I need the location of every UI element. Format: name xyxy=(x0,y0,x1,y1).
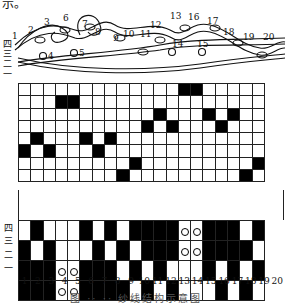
draft-cell xyxy=(154,120,166,132)
draft-cell xyxy=(19,84,31,96)
draft-cell xyxy=(117,120,129,132)
tieup-cell xyxy=(203,221,215,241)
tieup-cell xyxy=(154,221,166,241)
column-numbers: 1234567891011121314151617181920 xyxy=(18,276,284,286)
draft-cell xyxy=(154,96,166,108)
tieup-cell xyxy=(92,241,104,261)
column-number: 2 xyxy=(31,276,44,286)
draft-cell xyxy=(68,84,80,96)
grid-spacer xyxy=(18,190,284,220)
tieup-cell xyxy=(154,241,166,261)
draft-cell xyxy=(215,145,227,157)
draft-cell xyxy=(31,108,43,120)
tieup-cell xyxy=(141,241,153,261)
draft-cell xyxy=(141,84,153,96)
thread-number: 3 xyxy=(44,17,50,27)
draft-cell xyxy=(117,170,129,182)
draft-cell xyxy=(43,96,55,108)
draft-cell xyxy=(55,108,67,120)
tieup-cell xyxy=(252,221,264,241)
draft-cell xyxy=(215,84,227,96)
tieup-cell xyxy=(228,221,240,241)
draft-cell xyxy=(203,133,215,145)
draft-cell xyxy=(105,96,117,108)
draft-cell xyxy=(105,108,117,120)
draft-cell xyxy=(43,120,55,132)
thread-number: 6 xyxy=(63,13,69,23)
draft-cell xyxy=(166,170,178,182)
draft-cell xyxy=(252,84,264,96)
draft-cell xyxy=(141,170,153,182)
tieup-cell xyxy=(92,221,104,241)
tieup-cell xyxy=(191,221,203,241)
draft-cell xyxy=(252,133,264,145)
ring-marker-label: 4 xyxy=(48,51,54,61)
thread-number: 17 xyxy=(207,16,219,26)
draft-cell xyxy=(129,157,141,169)
tieup-row xyxy=(19,221,265,241)
draft-cell xyxy=(191,133,203,145)
draft-cell xyxy=(80,170,92,182)
draft-cell xyxy=(68,145,80,157)
draft-cell xyxy=(80,120,92,132)
tieup-cell xyxy=(129,241,141,261)
draft-cell xyxy=(240,157,252,169)
draft-cell xyxy=(43,133,55,145)
tieup-cell xyxy=(31,221,43,241)
draft-cell xyxy=(191,84,203,96)
draft-cell xyxy=(191,170,203,182)
ring-icon xyxy=(181,228,189,236)
thread-number: 8 xyxy=(95,27,101,37)
tieup-cell xyxy=(129,221,141,241)
draft-cell xyxy=(80,84,92,96)
draft-cell xyxy=(141,133,153,145)
column-number: 6 xyxy=(84,276,97,286)
draft-cell xyxy=(80,145,92,157)
draft-cell xyxy=(43,145,55,157)
tieup-grid xyxy=(18,220,265,301)
tieup-cell xyxy=(105,221,117,241)
column-number: 8 xyxy=(111,276,124,286)
draft-cell xyxy=(55,170,67,182)
tieup-cell xyxy=(117,221,129,241)
draft-cell xyxy=(105,145,117,157)
column-number: 13 xyxy=(178,276,191,286)
draft-cell xyxy=(129,84,141,96)
figure-caption: 图 ·· ·· 纱线结构示意图 xyxy=(70,290,202,305)
draft-cell xyxy=(92,157,104,169)
thread-number: 1 xyxy=(12,31,18,41)
draft-cell xyxy=(129,170,141,182)
draft-cell xyxy=(228,96,240,108)
shaft-label-4: 四 xyxy=(3,40,12,49)
draft-cell xyxy=(129,133,141,145)
draft-cell xyxy=(31,170,43,182)
draft-cell xyxy=(141,120,153,132)
ring-icon xyxy=(58,288,66,296)
draft-cell xyxy=(55,120,67,132)
tieup-cell xyxy=(178,221,190,241)
draft-cell xyxy=(92,96,104,108)
draft-cell xyxy=(31,84,43,96)
weave-illustration: 1 2 3 6 7 8 9 10 11 12 13 16 17 18 19 20… xyxy=(0,0,291,82)
draft-cell xyxy=(166,108,178,120)
draft-cell xyxy=(240,120,252,132)
draft-cell xyxy=(228,157,240,169)
ring-icon xyxy=(70,268,78,276)
draft-cell xyxy=(203,120,215,132)
thread-number: 13 xyxy=(170,11,182,21)
draft-cell xyxy=(191,96,203,108)
tieup-cell xyxy=(166,241,178,261)
draft-cell xyxy=(68,170,80,182)
thread-number: 2 xyxy=(28,25,34,35)
draft-row xyxy=(19,170,265,182)
draft-cell xyxy=(154,157,166,169)
draft-cell xyxy=(68,157,80,169)
draft-cell xyxy=(191,120,203,132)
draft-cell xyxy=(141,96,153,108)
draft-row xyxy=(19,145,265,157)
draft-cell xyxy=(105,84,117,96)
draft-cell xyxy=(117,157,129,169)
draft-cell xyxy=(129,108,141,120)
draft-cell xyxy=(203,170,215,182)
draft-cell xyxy=(191,145,203,157)
